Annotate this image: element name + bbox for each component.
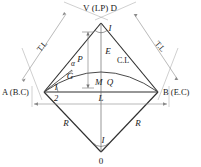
curve-length-label: C.L <box>117 56 129 65</box>
mid-ordinate-label: M <box>94 77 103 87</box>
edge-O-to-A <box>44 92 101 152</box>
long-chord-label: L <box>97 93 103 103</box>
point-q-label: Q <box>107 77 114 87</box>
diagram-canvas: V (LP) D A (B.C) B (E.C) 0 T.L T.L R R L… <box>0 0 201 167</box>
L-arrowhead-left <box>34 102 38 105</box>
edge-A-to-V <box>44 23 101 92</box>
half-angle-numerator: I <box>54 83 58 92</box>
M-arrowhead-bottom <box>86 85 89 88</box>
center-vertex-label: 0 <box>99 156 104 166</box>
tangent-length-right-label: T.L <box>153 39 167 53</box>
curve-diagram-figure: V (LP) D A (B.C) B (E.C) 0 T.L T.L R R L… <box>0 0 201 167</box>
apex-label: V (LP) D <box>83 3 117 13</box>
radius-left-label: R <box>62 118 69 128</box>
tl-right-arrowhead-start <box>134 14 138 17</box>
external-label: E <box>104 46 111 56</box>
point-g-label: G <box>67 71 74 81</box>
half-angle-denominator: 2 <box>54 93 59 103</box>
right-vertex-label: B (E.C) <box>163 87 190 97</box>
apex-angle-label: I <box>108 23 113 33</box>
L-arrowhead-right <box>163 102 167 105</box>
half-angle-fraction: I 2 <box>54 83 59 103</box>
tl-right-arrowhead-end <box>175 77 179 80</box>
radius-right-label: R <box>134 118 141 128</box>
point-p-label: P <box>76 54 83 64</box>
left-vertex-label: A (B.C) <box>2 87 29 97</box>
angle-alpha-label: α <box>71 59 76 68</box>
E-arrowhead-top <box>86 32 89 35</box>
edge-B-to-O <box>101 92 158 152</box>
center-angle-label: I <box>101 135 106 145</box>
tangent-length-left-label: T.L <box>35 39 49 53</box>
